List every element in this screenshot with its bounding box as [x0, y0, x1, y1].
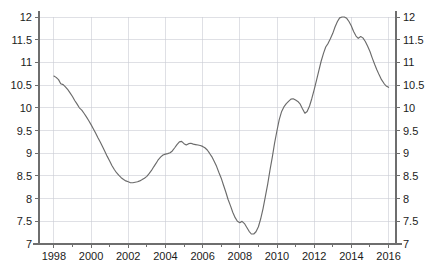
- y-axis-left-labels: 77.588.599.51010.51111.512: [11, 11, 32, 250]
- x-axis-label: 2008: [228, 250, 252, 262]
- data-series: [54, 17, 389, 234]
- x-axis-label: 2002: [116, 250, 140, 262]
- y-axis-label-right: 8: [403, 193, 409, 205]
- y-axis-label-left: 8.5: [17, 170, 32, 182]
- series-line-indicator: [54, 17, 389, 234]
- line-chart: 77.588.599.51010.51111.512 77.588.599.51…: [0, 0, 430, 277]
- x-axis-label: 2000: [79, 250, 103, 262]
- horizontal-gridlines: [39, 17, 396, 221]
- y-axis-label-right: 11: [403, 56, 414, 68]
- y-axis-label-right: 9.5: [403, 125, 418, 137]
- y-axis-label-right: 11.5: [403, 34, 424, 46]
- y-axis-label-left: 11: [21, 56, 32, 68]
- y-axis-label-right: 7: [403, 238, 409, 250]
- x-axis-label: 2012: [302, 250, 326, 262]
- y-axis-right-labels: 77.588.599.51010.51111.512: [403, 11, 424, 250]
- x-axis-label: 2010: [265, 250, 289, 262]
- y-axis-label-right: 10: [403, 102, 415, 114]
- x-axis-label: 2004: [153, 250, 177, 262]
- axis-tick-marks: [35, 17, 400, 248]
- y-axis-label-left: 8: [26, 193, 32, 205]
- x-axis-label: 1998: [42, 250, 66, 262]
- y-axis-label-right: 10.5: [403, 79, 424, 91]
- y-axis-label-left: 11.5: [11, 34, 32, 46]
- chart-container: 77.588.599.51010.51111.512 77.588.599.51…: [0, 0, 430, 277]
- y-axis-label-right: 7.5: [403, 215, 418, 227]
- y-axis-label-left: 7: [26, 238, 32, 250]
- y-axis-label-right: 9: [403, 147, 409, 159]
- y-axis-label-left: 10.5: [11, 79, 32, 91]
- chart-axes: [33, 11, 402, 244]
- y-axis-label-right: 8.5: [403, 170, 418, 182]
- y-axis-label-right: 12: [403, 11, 415, 23]
- y-axis-label-left: 9: [26, 147, 32, 159]
- x-axis-label: 2016: [376, 250, 400, 262]
- x-axis-labels: 1998200020022004200620082010201220142016: [42, 250, 401, 262]
- x-axis-label: 2014: [339, 250, 363, 262]
- y-axis-label-left: 7.5: [17, 215, 32, 227]
- y-axis-label-left: 9.5: [17, 125, 32, 137]
- y-axis-label-left: 12: [20, 11, 32, 23]
- x-axis-label: 2006: [190, 250, 214, 262]
- y-axis-label-left: 10: [20, 102, 32, 114]
